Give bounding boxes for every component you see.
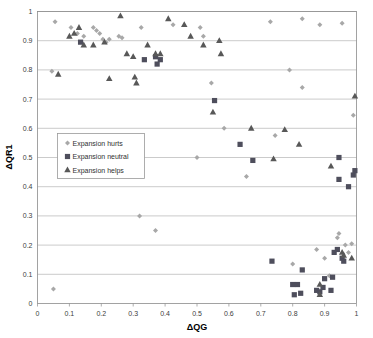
data-point-square	[295, 282, 300, 287]
legend-marker-square	[65, 154, 70, 159]
data-point-square	[341, 259, 346, 264]
x-axis-tick-label: 0.2	[96, 310, 106, 317]
y-axis-tick-label: 0.6	[23, 125, 33, 132]
x-axis-tick-label: 1	[355, 310, 359, 317]
data-point-square	[346, 184, 351, 189]
legend-label-0: Expansion hurts	[73, 140, 124, 148]
x-axis-title: ΔQG	[187, 322, 207, 332]
x-axis-tick-label: 0.4	[160, 310, 170, 317]
y-axis-tick-label: 0.7	[23, 96, 33, 103]
y-axis-tick-label: 0.9	[23, 37, 33, 44]
data-point-square	[335, 247, 340, 252]
chart-canvas: 00.10.20.30.40.50.60.70.80.9100.10.20.30…	[0, 0, 373, 338]
data-point-square	[292, 292, 297, 297]
legend-label-1: Expansion neutral	[73, 153, 129, 161]
x-axis-tick-label: 0.5	[192, 310, 202, 317]
x-axis-tick-label: 0	[36, 310, 40, 317]
data-point-square	[237, 142, 242, 147]
y-axis-tick-label: 0.5	[23, 154, 33, 161]
y-axis-tick-label: 0.1	[23, 271, 33, 278]
y-axis-tick-label: 0.3	[23, 212, 33, 219]
data-point-square	[269, 259, 274, 264]
legend-label-2: Expansion helps	[73, 167, 125, 175]
y-axis-tick-label: 0.4	[23, 183, 33, 190]
y-axis-tick-label: 0.8	[23, 66, 33, 73]
x-axis-tick-label: 0.1	[65, 310, 75, 317]
y-axis-tick-label: 0.2	[23, 242, 33, 249]
data-point-square	[142, 57, 147, 62]
data-point-square	[352, 168, 357, 173]
data-point-square	[250, 158, 255, 163]
y-axis-title: ΔQR1	[4, 145, 14, 170]
data-point-square	[336, 155, 341, 160]
y-axis-tick-label: 1	[29, 8, 33, 15]
data-point-square	[78, 40, 83, 45]
scatter-plot-figure: 00.10.20.30.40.50.60.70.80.9100.10.20.30…	[0, 0, 373, 338]
data-point-square	[290, 282, 295, 287]
data-point-square	[330, 275, 335, 280]
data-point-square	[158, 57, 163, 62]
data-point-square	[328, 288, 333, 293]
data-point-square	[336, 177, 341, 182]
data-point-square	[300, 267, 305, 272]
x-axis-tick-label: 0.6	[224, 310, 234, 317]
data-point-square	[298, 291, 303, 296]
x-axis-tick-label: 0.3	[128, 310, 138, 317]
x-axis-tick-label: 0.7	[256, 310, 266, 317]
x-axis-tick-label: 0.8	[288, 310, 298, 317]
data-point-square	[322, 276, 327, 281]
y-axis-tick-label: 0	[29, 300, 33, 307]
x-axis-tick-label: 0.9	[320, 310, 330, 317]
data-point-square	[212, 98, 217, 103]
